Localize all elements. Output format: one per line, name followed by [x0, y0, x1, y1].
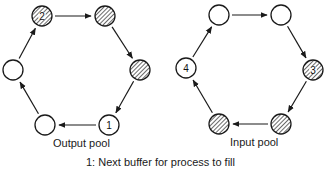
- output-arrow-bottom-left-to-left: [20, 82, 38, 114]
- input-arrow-top-right-to-right: [288, 26, 306, 58]
- input-buffer-bottom-right-full: [271, 114, 291, 134]
- output-buffer-top-right-full: [95, 6, 115, 26]
- output-pool-label: Output pool: [53, 137, 110, 149]
- output-buffer-bottom-left-empty: [35, 115, 55, 135]
- legend-text: 1: Next buffer for process to fill: [86, 156, 235, 168]
- output-buffer-right-full: [130, 60, 150, 80]
- output-arrow-right-to-bottom-right: [116, 81, 134, 112]
- output-arrow-left-to-top-left: [19, 28, 35, 58]
- input-buffer-top-right-empty: [271, 5, 291, 25]
- input-arrow-bottom-left-to-left: [193, 80, 212, 113]
- output-buffer-bottom-right-empty: 1: [99, 115, 119, 135]
- buffer-number: 1: [106, 120, 112, 131]
- output-buffer-top-left-full: 2: [32, 6, 52, 26]
- buffer-pools-diagram: 2134: [0, 0, 329, 169]
- input-buffer-bottom-left-full: [209, 114, 229, 134]
- input-pool-label: Input pool: [230, 136, 278, 148]
- input-arrow-right-to-bottom-right: [288, 81, 306, 112]
- buffer-number: 2: [39, 11, 45, 22]
- buffer-number: 4: [183, 63, 189, 74]
- input-buffer-top-left-empty: [209, 5, 229, 25]
- input-buffer-left-empty: 4: [176, 58, 196, 78]
- output-buffer-left-empty: [3, 60, 23, 80]
- input-buffer-right-full: 3: [303, 60, 323, 80]
- buffer-number: 3: [310, 65, 316, 76]
- input-arrow-left-to-top-left: [193, 27, 212, 57]
- pool-edges: [19, 15, 306, 125]
- pool-nodes: 2134: [3, 5, 323, 135]
- output-arrow-top-right-to-right: [112, 27, 132, 58]
